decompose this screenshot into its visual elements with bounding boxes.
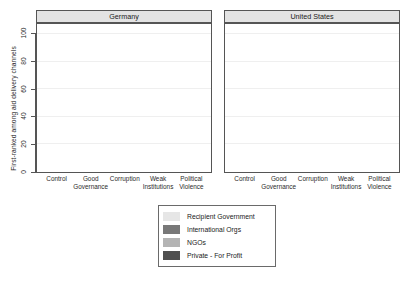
bar-group-germany: [37, 34, 211, 172]
legend-item: NGOs: [163, 236, 271, 249]
y-tick-label: 100: [18, 27, 30, 39]
x-axis-labels-germany: ControlGoodGovernanceCorruptionWeakInsti…: [36, 175, 212, 197]
bar-slot: [229, 34, 262, 172]
legend-label: International Orgs: [187, 226, 241, 233]
legend-item: Private - For Profit: [163, 249, 271, 262]
chart-legend: Recipient GovernmentInternational OrgsNG…: [158, 205, 276, 267]
x-tick-label: GoodGovernance: [73, 175, 108, 197]
y-tick-label: 80: [18, 55, 30, 67]
y-tick-label: 40: [18, 110, 30, 122]
legend-swatch: [163, 251, 180, 260]
bar-slot: [41, 34, 74, 172]
bar-slot: [329, 34, 362, 172]
panel-header-germany: Germany: [36, 10, 212, 23]
bar-slot: [362, 34, 395, 172]
x-tick-label: WeakInstitutions: [141, 175, 174, 197]
bar-slot: [295, 34, 328, 172]
y-tick-label: 0: [18, 166, 30, 178]
x-tick-label: Control: [40, 175, 73, 197]
x-tick-label: WeakInstitutions: [329, 175, 362, 197]
x-tick-label: PoliticalViolence: [363, 175, 396, 197]
legend-swatch: [163, 225, 180, 234]
y-tick-label: 20: [18, 138, 30, 150]
bar-slot: [141, 34, 174, 172]
y-axis-title: First-ranked among aid delivery channels: [10, 34, 17, 184]
x-axis-labels-united-states: ControlGoodGovernanceCorruptionWeakInsti…: [224, 175, 400, 197]
plot-panel-germany: [36, 23, 212, 173]
stacked-bar-chart-figure: First-ranked among aid delivery channels…: [0, 0, 414, 285]
x-tick-label: Corruption: [296, 175, 329, 197]
legend-label: NGOs: [187, 239, 206, 246]
x-tick-label: GoodGovernance: [261, 175, 296, 197]
x-tick-label: Control: [228, 175, 261, 197]
legend-label: Recipient Government: [187, 213, 255, 220]
plot-panel-united-states: [224, 23, 400, 173]
legend-swatch: [163, 212, 180, 221]
legend-swatch: [163, 238, 180, 247]
bar-slot: [262, 34, 295, 172]
bar-slot: [107, 34, 140, 172]
bar-group-united-states: [225, 34, 399, 172]
legend-label: Private - For Profit: [187, 252, 242, 259]
legend-item: Recipient Government: [163, 210, 271, 223]
panel-header-united-states: United States: [224, 10, 400, 23]
plot-area-germany: [37, 34, 211, 172]
bar-slot: [74, 34, 107, 172]
x-tick-label: Corruption: [108, 175, 141, 197]
x-tick-label: PoliticalViolence: [175, 175, 208, 197]
legend-item: International Orgs: [163, 223, 271, 236]
y-tick-label: 60: [18, 83, 30, 95]
plot-area-united-states: [225, 34, 399, 172]
bar-slot: [174, 34, 207, 172]
